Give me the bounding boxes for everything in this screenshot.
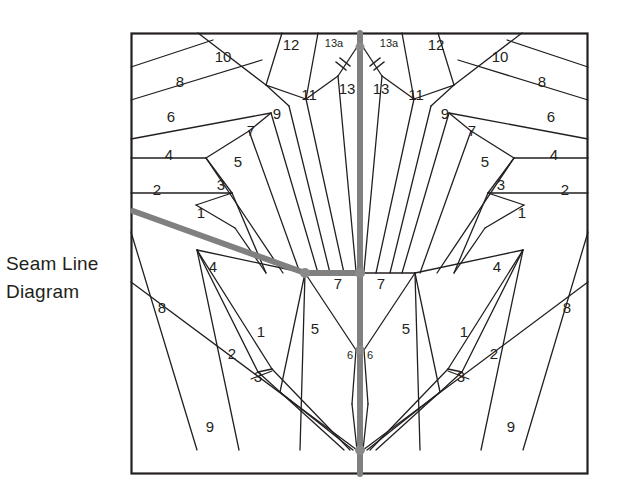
piece-label-tr-7: 7 bbox=[468, 122, 476, 139]
piece-label-bl-4: 4 bbox=[209, 258, 217, 275]
piece-label-bl-9: 9 bbox=[206, 418, 214, 435]
seam-node-top bbox=[356, 43, 365, 52]
piece-label-tr-5: 5 bbox=[481, 153, 489, 170]
piece-label-tr-2: 2 bbox=[561, 181, 569, 198]
piece-label-bl-5: 5 bbox=[311, 320, 319, 337]
piece-label-tl-1: 1 bbox=[197, 204, 205, 221]
piece-label-tr-12: 12 bbox=[428, 36, 445, 53]
piece-label-tr-13: 13 bbox=[373, 80, 390, 97]
piece-label-tl-6: 6 bbox=[167, 108, 175, 125]
piece-label-bl-6: 6 bbox=[347, 349, 353, 361]
piece-label-br-5: 5 bbox=[402, 320, 410, 337]
piece-label-tl-8: 8 bbox=[176, 73, 184, 90]
piece-label-br-7: 7 bbox=[377, 275, 385, 292]
piece-label-tl-3: 3 bbox=[217, 176, 225, 193]
piece-label-tr-10: 10 bbox=[492, 48, 509, 65]
piece-label-tl-2: 2 bbox=[153, 181, 161, 198]
piece-label-bl-8: 8 bbox=[158, 299, 166, 316]
seam-node-bottom bbox=[355, 445, 365, 455]
piece-label-tl-11: 11 bbox=[301, 86, 317, 103]
piece-label-tl-9: 9 bbox=[273, 105, 281, 122]
piece-label-bl-1: 1 bbox=[257, 323, 265, 340]
piece-label-br-1: 1 bbox=[460, 323, 468, 340]
piece-label-tl-7: 7 bbox=[247, 122, 255, 139]
piece-label-tr-1: 1 bbox=[518, 204, 526, 221]
seam-line-diagram-page: Seam Line Diagram bbox=[0, 0, 618, 495]
seam-node-left bbox=[300, 268, 310, 278]
seam-diagram-svg: 1213a1311109876543211213a131110987654321… bbox=[0, 0, 618, 495]
piece-label-bl-2: 2 bbox=[228, 345, 236, 362]
piece-label-tl-13: 13 bbox=[339, 80, 356, 97]
piece-label-tr-8: 8 bbox=[538, 73, 546, 90]
piece-label-tl-13a: 13a bbox=[325, 37, 344, 49]
piece-label-bl-7: 7 bbox=[334, 275, 342, 292]
piece-label-tr-9: 9 bbox=[441, 105, 449, 122]
piece-label-tl-10: 10 bbox=[215, 48, 232, 65]
piece-label-tr-13a: 13a bbox=[380, 37, 399, 49]
piece-label-tr-3: 3 bbox=[497, 176, 505, 193]
piece-label-br-2: 2 bbox=[490, 345, 498, 362]
piece-label-tl-12: 12 bbox=[283, 36, 300, 53]
piece-label-tl-5: 5 bbox=[234, 153, 242, 170]
piece-label-bl-3: 3 bbox=[254, 368, 262, 385]
piece-label-tr-11: 11 bbox=[408, 86, 424, 103]
piece-label-br-6: 6 bbox=[367, 349, 373, 361]
piece-label-br-3: 3 bbox=[457, 368, 465, 385]
piece-label-tr-4: 4 bbox=[550, 146, 558, 163]
piece-label-br-4: 4 bbox=[493, 258, 501, 275]
piece-label-tl-4: 4 bbox=[165, 146, 173, 163]
piece-label-br-9: 9 bbox=[507, 418, 515, 435]
piece-label-tr-6: 6 bbox=[547, 108, 555, 125]
seam-node-center bbox=[355, 268, 365, 278]
seam-node-v bbox=[356, 346, 365, 355]
piece-label-br-8: 8 bbox=[563, 299, 571, 316]
